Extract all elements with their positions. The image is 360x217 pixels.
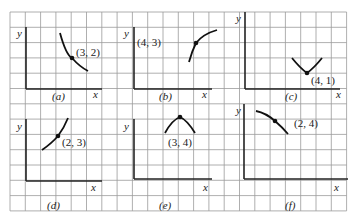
panel-a: yx(a)(3, 2) [16,27,102,103]
x-axis-label: x [92,88,98,100]
point-label: (4, 3) [137,36,161,49]
point-marker [273,119,278,124]
panel-e: yx(e)(3, 4) [123,115,212,212]
x-axis-label: x [90,181,96,193]
panels: yx(a)(3, 2)yx(b)(4, 3)yx(c)(4, 1)yx(d)(2… [16,12,348,212]
point-marker [70,56,75,61]
curve [189,30,217,62]
point-marker [56,134,61,139]
panel-caption: (c) [285,90,298,103]
figure: yx(a)(3, 2)yx(b)(4, 3)yx(c)(4, 1)yx(d)(2… [0,0,360,217]
x-axis-label: x [202,181,208,193]
y-axis-label: y [235,12,241,24]
point-marker [305,71,310,76]
point-label: (2, 4) [294,117,318,130]
point-label: (4, 1) [311,74,335,87]
panel-b: yx(b)(4, 3) [123,27,217,103]
x-axis-label: x [335,88,341,100]
panel-caption: (b) [159,90,172,103]
panel-caption: (d) [47,199,60,212]
curve [256,111,288,134]
y-axis-label: y [123,27,129,39]
panel-caption: (e) [159,199,172,212]
x-axis-label: x [333,181,339,193]
panel-caption: (a) [52,90,65,103]
point-label: (3, 2) [76,46,100,59]
point-label: (2, 3) [62,136,86,149]
point-label: (3, 4) [168,136,192,149]
point-marker [178,115,183,120]
y-axis-label: y [16,27,22,39]
point-marker [194,41,199,46]
x-axis-label: x [201,88,207,100]
y-axis-label: y [16,120,22,132]
panel-caption: (f) [285,199,296,212]
y-axis-label: y [235,104,241,116]
y-axis-label: y [123,120,129,132]
